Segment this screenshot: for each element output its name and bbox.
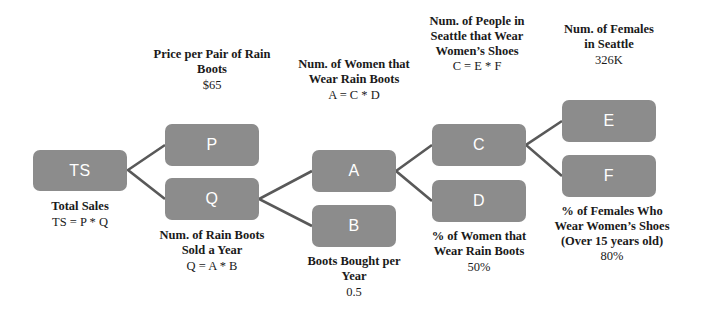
node-d[interactable]: D — [432, 180, 526, 222]
caption-q-title: Num. of Rain Boots Sold a Year — [149, 228, 275, 258]
caption-c-value: C = E * F — [413, 59, 541, 74]
node-b-label: B — [348, 217, 359, 235]
connector-q-to-a-b — [259, 171, 312, 226]
caption-d-title: % of Women that Wear Rain Boots — [421, 229, 537, 259]
caption-q-value: Q = A * B — [149, 259, 275, 274]
caption-e-value: 326K — [559, 53, 659, 68]
node-f[interactable]: F — [562, 155, 656, 197]
node-b[interactable]: B — [312, 205, 396, 247]
node-ts-label: TS — [69, 162, 90, 180]
connector-ts-to-p-q — [128, 145, 165, 199]
connector-c-to-e-f — [526, 121, 562, 176]
node-a[interactable]: A — [312, 150, 396, 192]
caption-p-value: $65 — [152, 78, 272, 93]
node-a-label: A — [348, 162, 359, 180]
caption-p: Price per Pair of Rain Boots $65 — [152, 47, 272, 92]
caption-d-value: 50% — [421, 260, 537, 275]
caption-b-title: Boots Bought per Year — [303, 254, 405, 284]
connector-a-to-c-d — [396, 145, 432, 201]
node-d-label: D — [473, 192, 485, 210]
caption-a-title: Num. of Women that Wear Rain Boots — [293, 57, 415, 87]
caption-e-title: Num. of Females in Seattle — [559, 22, 659, 52]
node-p[interactable]: P — [165, 124, 259, 166]
caption-b: Boots Bought per Year 0.5 — [303, 254, 405, 299]
caption-c-title: Num. of People in Seattle that Wear Wome… — [413, 14, 541, 58]
caption-p-title: Price per Pair of Rain Boots — [152, 47, 272, 77]
caption-c: Num. of People in Seattle that Wear Wome… — [413, 14, 541, 74]
caption-q: Num. of Rain Boots Sold a Year Q = A * B — [149, 228, 275, 273]
caption-f: % of Females Who Wear Women’s Shoes (Ove… — [549, 204, 675, 264]
caption-e: Num. of Females in Seattle 326K — [559, 22, 659, 67]
node-p-label: P — [206, 136, 217, 154]
node-e[interactable]: E — [562, 100, 656, 142]
caption-ts: Total Sales TS = P * Q — [20, 199, 140, 230]
caption-ts-value: TS = P * Q — [20, 215, 140, 230]
caption-f-title: % of Females Who Wear Women’s Shoes (Ove… — [549, 204, 675, 248]
caption-f-value: 80% — [549, 249, 675, 264]
node-q[interactable]: Q — [165, 178, 259, 220]
node-f-label: F — [604, 167, 614, 185]
estimation-tree-diagram: TS P Q A B C D E F Total Sales TS = P * … — [0, 0, 705, 319]
caption-a-value: A = C * D — [293, 88, 415, 103]
node-c[interactable]: C — [432, 124, 526, 166]
caption-b-value: 0.5 — [303, 285, 405, 300]
node-q-label: Q — [206, 190, 219, 208]
caption-a: Num. of Women that Wear Rain Boots A = C… — [293, 57, 415, 102]
caption-ts-title: Total Sales — [20, 199, 140, 214]
node-c-label: C — [473, 136, 485, 154]
caption-d: % of Women that Wear Rain Boots 50% — [421, 229, 537, 274]
node-ts[interactable]: TS — [33, 150, 127, 191]
node-e-label: E — [603, 112, 614, 130]
